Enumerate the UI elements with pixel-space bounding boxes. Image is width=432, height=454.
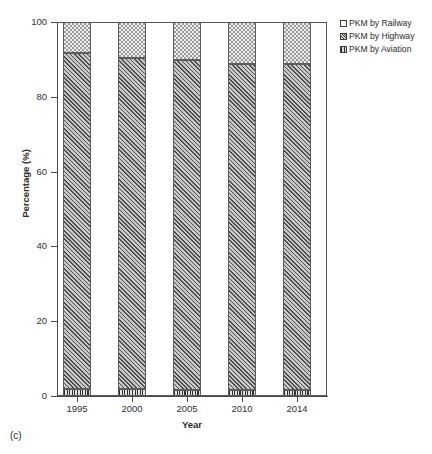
legend-label-railway: PKM by Railway	[349, 19, 412, 28]
figure-container: 0 20 40 60 80 100 Percentage (%)	[0, 0, 432, 454]
x-tick-label-1995: 1995	[47, 404, 107, 414]
y-tick-label-0: 0	[7, 391, 47, 401]
x-tick-mark-1995	[77, 397, 78, 402]
legend-swatch-railway-icon	[340, 20, 347, 27]
bar-segment-aviation-1995	[63, 389, 91, 396]
legend-swatch-highway-icon	[340, 33, 347, 40]
bar-segment-aviation-2005	[173, 390, 201, 396]
bar-segment-railway-2005	[173, 22, 201, 60]
y-tick-label-100: 100	[7, 17, 47, 27]
y-tick-label-20: 20	[7, 316, 47, 326]
bar-segment-highway-2000	[118, 58, 146, 389]
figure-caption: (c)	[10, 430, 22, 441]
bar-segment-railway-2010	[228, 22, 256, 64]
bars-layer	[57, 22, 327, 396]
bar-segment-aviation-2000	[118, 389, 146, 396]
legend-item-railway: PKM by Railway	[340, 17, 432, 29]
legend: PKM by Railway PKM by Highway PKM by Avi…	[340, 17, 432, 56]
legend-item-aviation: PKM by Aviation	[340, 43, 432, 55]
x-tick-mark-2000	[132, 397, 133, 402]
x-tick-mark-2010	[242, 397, 243, 402]
bar-segment-aviation-2014	[283, 390, 311, 396]
y-tick-mark-0	[51, 396, 57, 397]
bar-segment-railway-2014	[283, 22, 311, 64]
x-tick-mark-2014	[297, 397, 298, 402]
x-tick-label-2005: 2005	[157, 404, 217, 414]
bar-segment-aviation-2010	[228, 390, 256, 396]
bar-segment-highway-2005	[173, 60, 201, 390]
y-axis-title: Percentage (%)	[20, 114, 31, 254]
bar-segment-highway-2014	[283, 64, 311, 390]
legend-swatch-aviation-icon	[340, 46, 347, 53]
x-tick-mark-2005	[187, 397, 188, 402]
x-axis-title: Year	[57, 419, 327, 430]
bar-segment-railway-1995	[63, 22, 91, 53]
x-tick-label-2010: 2010	[212, 404, 272, 414]
x-tick-label-2000: 2000	[102, 404, 162, 414]
bar-segment-railway-2000	[118, 22, 146, 58]
legend-label-aviation: PKM by Aviation	[349, 45, 411, 54]
x-axis-line	[57, 396, 328, 397]
legend-label-highway: PKM by Highway	[349, 32, 414, 41]
bar-segment-highway-2010	[228, 64, 256, 390]
legend-item-highway: PKM by Highway	[340, 30, 432, 42]
x-tick-label-2014: 2014	[267, 404, 327, 414]
bar-segment-highway-1995	[63, 53, 91, 389]
y-tick-label-80: 80	[7, 92, 47, 102]
